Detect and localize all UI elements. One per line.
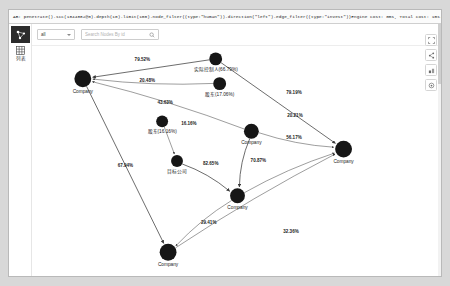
search-input-placeholder: Search Nodes By id bbox=[85, 32, 149, 37]
edge-label: 43.63% bbox=[157, 100, 172, 105]
graph-edge[interactable] bbox=[239, 139, 249, 187]
edge-label: 79.52% bbox=[135, 57, 150, 62]
layers-button[interactable] bbox=[425, 64, 437, 76]
graph-node[interactable]: 实际控制人(66.79%) bbox=[194, 52, 239, 72]
graph-node-circle[interactable] bbox=[156, 115, 168, 127]
graph-node[interactable]: 股东(16.16%) bbox=[148, 115, 178, 134]
edge-label: 70.87% bbox=[251, 158, 266, 163]
layers-icon bbox=[428, 67, 435, 74]
scope-select-value: all bbox=[41, 32, 67, 37]
edge-label: 82.65% bbox=[203, 161, 218, 166]
graph-node-circle[interactable] bbox=[171, 155, 183, 167]
edge-label: 20.21% bbox=[287, 113, 302, 118]
graph-node-label: Company bbox=[158, 262, 179, 267]
graph-node[interactable]: Company bbox=[227, 188, 248, 209]
canvas-tool-strip bbox=[425, 34, 437, 91]
graph-node-circle[interactable] bbox=[213, 77, 226, 90]
edge-label: 67.94% bbox=[118, 163, 133, 168]
edge-label: 16.16% bbox=[181, 121, 196, 126]
chevron-down-icon bbox=[67, 34, 71, 36]
edge-label: 79.19% bbox=[286, 90, 301, 95]
graph-edge[interactable] bbox=[221, 63, 336, 144]
link-share-icon bbox=[428, 52, 435, 59]
search-icon bbox=[149, 32, 155, 38]
list-grid-icon bbox=[16, 46, 25, 55]
edge-label: 56.17% bbox=[286, 135, 301, 140]
graph-node[interactable]: Company bbox=[241, 124, 262, 145]
share-link-button[interactable] bbox=[425, 49, 437, 61]
graph-node[interactable]: Company bbox=[158, 244, 179, 267]
graph-node-label: Company bbox=[333, 159, 354, 164]
left-rail: 列表 bbox=[9, 24, 32, 277]
graph-node-label: 目标公司 bbox=[167, 168, 187, 175]
app-root: AB: penetrate().scc(1844882@0).depth(10)… bbox=[0, 0, 450, 286]
fullscreen-button[interactable] bbox=[425, 34, 437, 46]
graph-canvas[interactable]: 79.52%20.48%43.63%79.19%20.21%56.17%16.1… bbox=[32, 46, 441, 276]
graph-node-label: 实际控制人(66.79%) bbox=[194, 66, 239, 73]
query-text: AB: penetrate().scc(1844882@0).depth(10)… bbox=[13, 14, 441, 20]
graph-edge[interactable] bbox=[175, 154, 335, 248]
vertical-scrollbar-thumb[interactable] bbox=[438, 24, 441, 84]
query-status-bar[interactable]: AB: penetrate().scc(1844882@0).depth(10)… bbox=[9, 10, 441, 24]
graph-edge[interactable] bbox=[182, 164, 230, 191]
graph-node-label: 股东(16.16%) bbox=[148, 128, 178, 135]
sidebar-item-list-label: 列表 bbox=[16, 56, 26, 62]
edge-label: 29.41% bbox=[201, 220, 216, 225]
graph-node-circle[interactable] bbox=[230, 188, 245, 203]
graph-svg[interactable]: 79.52%20.48%43.63%79.19%20.21%56.17%16.1… bbox=[32, 46, 441, 276]
graph-node[interactable]: Company bbox=[73, 70, 94, 93]
edge-label: 32.36% bbox=[283, 229, 298, 234]
graph-node-circle[interactable] bbox=[335, 141, 352, 158]
edge-label: 20.48% bbox=[140, 78, 155, 83]
graph-node[interactable]: 股东(17.06%) bbox=[205, 77, 235, 97]
graph-node-label: Company bbox=[73, 89, 94, 94]
graph-node-circle[interactable] bbox=[209, 52, 222, 65]
graph-node-circle[interactable] bbox=[160, 244, 177, 261]
search-nodes-field[interactable]: Search Nodes By id bbox=[81, 29, 159, 40]
scope-select[interactable]: all bbox=[37, 29, 75, 40]
sidebar-item-list[interactable]: 列表 bbox=[11, 46, 30, 62]
graph-node-circle[interactable] bbox=[74, 70, 91, 87]
graph-node-label: Company bbox=[227, 205, 248, 210]
fullscreen-icon bbox=[428, 37, 435, 44]
graph-logo-icon[interactable] bbox=[11, 26, 30, 43]
graph-toolbar: all Search Nodes By id bbox=[9, 24, 441, 46]
node-layer[interactable]: Company实际控制人(66.79%)股东(17.06%)股东(16.16%)… bbox=[73, 52, 355, 267]
graph-node-circle[interactable] bbox=[244, 124, 259, 139]
settings-button[interactable] bbox=[425, 79, 437, 91]
graph-node-label: Company bbox=[241, 140, 262, 145]
graph-node-label: 股东(17.06%) bbox=[205, 91, 235, 98]
graph-edge[interactable] bbox=[93, 60, 210, 77]
vertical-scrollbar[interactable] bbox=[438, 24, 441, 277]
settings-icon bbox=[428, 82, 435, 89]
graph-node[interactable]: Company bbox=[333, 141, 354, 164]
graph-explorer-window: AB: penetrate().scc(1844882@0).depth(10)… bbox=[8, 9, 442, 277]
